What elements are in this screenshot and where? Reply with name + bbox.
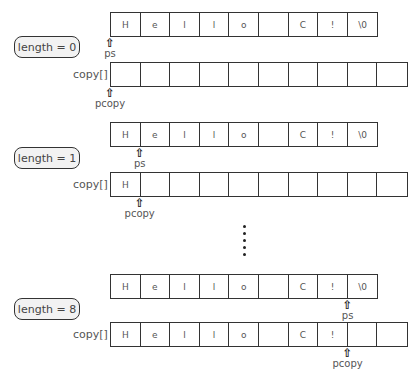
source-cell: l: [170, 275, 200, 298]
ellipsis-dot: [243, 253, 246, 256]
copy-array: HelloC!: [110, 322, 408, 347]
up-arrow-icon: ⇧: [120, 198, 160, 208]
copy-cell: l: [200, 323, 230, 346]
copy-cell: !: [318, 323, 348, 346]
copy-cell: [348, 63, 378, 86]
copy-cell: [289, 173, 319, 196]
copy-cell: H: [111, 323, 141, 346]
copy-cell: [377, 173, 407, 196]
source-cell: C: [289, 13, 319, 36]
copy-cell: [259, 173, 289, 196]
copy-cell: [377, 323, 407, 346]
up-arrow-icon: ⇧: [333, 300, 363, 310]
copy-cell: [318, 63, 348, 86]
ps-label: ps: [95, 48, 125, 60]
source-cell: l: [200, 275, 230, 298]
source-cell: [259, 275, 289, 298]
ps-pointer: ⇧ps: [125, 148, 155, 170]
source-cell: C: [289, 123, 319, 146]
copy-cell: o: [229, 323, 259, 346]
up-arrow-icon: ⇧: [95, 38, 125, 48]
ellipsis-dot: [243, 225, 246, 228]
source-cell: [259, 13, 289, 36]
source-cell: H: [111, 123, 141, 146]
pcopy-label: pcopy: [328, 358, 368, 370]
copy-cell: [200, 63, 230, 86]
source-array: Hello C!\0: [110, 122, 378, 147]
copy-cell: [229, 173, 259, 196]
copy-cell: [289, 63, 319, 86]
copy-array: H: [110, 172, 408, 197]
copy-array: [110, 62, 408, 87]
length-state-badge: length = 8: [14, 298, 80, 320]
copy-cell: [111, 63, 141, 86]
source-array: Hello C!\0: [110, 12, 378, 37]
copy-cell: [200, 173, 230, 196]
source-cell: e: [141, 13, 171, 36]
ellipsis-dot: [243, 239, 246, 242]
copy-cell: C: [289, 323, 319, 346]
copy-array-label: copy[]: [73, 328, 108, 341]
copy-cell: e: [141, 323, 171, 346]
ellipsis-dot: [243, 232, 246, 235]
up-arrow-icon: ⇧: [90, 88, 130, 98]
copy-cell: [377, 63, 407, 86]
source-cell: o: [229, 123, 259, 146]
copy-cell: l: [170, 323, 200, 346]
pcopy-pointer: ⇧pcopy: [90, 88, 130, 110]
copy-array-label: copy[]: [73, 68, 108, 81]
copy-cell: [348, 173, 378, 196]
source-cell: !: [318, 123, 348, 146]
source-cell: o: [229, 13, 259, 36]
copy-array-label: copy[]: [73, 178, 108, 191]
ps-pointer: ⇧ps: [95, 38, 125, 60]
pcopy-pointer: ⇧pcopy: [328, 348, 368, 370]
source-cell: [259, 123, 289, 146]
ellipsis-dot: [243, 246, 246, 249]
source-cell: \0: [348, 13, 378, 36]
ps-label: ps: [333, 310, 363, 322]
copy-cell: [229, 63, 259, 86]
pcopy-label: pcopy: [90, 98, 130, 110]
length-state-badge: length = 0: [14, 36, 80, 58]
copy-cell: [259, 323, 289, 346]
source-cell: !: [318, 13, 348, 36]
ps-pointer: ⇧ps: [333, 300, 363, 322]
copy-cell: H: [111, 173, 141, 196]
copy-cell: [259, 63, 289, 86]
source-cell: C: [289, 275, 319, 298]
source-cell: e: [141, 123, 171, 146]
pcopy-pointer: ⇧pcopy: [120, 198, 160, 220]
source-cell: !: [318, 275, 348, 298]
copy-cell: [170, 63, 200, 86]
up-arrow-icon: ⇧: [328, 348, 368, 358]
source-cell: \0: [348, 123, 378, 146]
pcopy-label: pcopy: [120, 208, 160, 220]
source-array: Hello C!\0: [110, 274, 378, 299]
source-cell: l: [170, 123, 200, 146]
source-cell: l: [200, 13, 230, 36]
length-state-badge: length = 1: [14, 147, 80, 169]
source-cell: e: [141, 275, 171, 298]
source-cell: H: [111, 275, 141, 298]
source-cell: l: [170, 13, 200, 36]
ps-label: ps: [125, 158, 155, 170]
source-cell: H: [111, 13, 141, 36]
copy-cell: [348, 323, 378, 346]
copy-cell: [141, 63, 171, 86]
source-cell: l: [200, 123, 230, 146]
source-cell: \0: [348, 275, 378, 298]
up-arrow-icon: ⇧: [125, 148, 155, 158]
source-cell: o: [229, 275, 259, 298]
copy-cell: [141, 173, 171, 196]
copy-cell: [318, 173, 348, 196]
copy-cell: [170, 173, 200, 196]
